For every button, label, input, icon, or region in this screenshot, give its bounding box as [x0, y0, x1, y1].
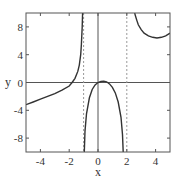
y-axis-label: y: [5, 75, 11, 89]
y-tick-label: 4: [18, 49, 24, 61]
x-tick-label: 4: [153, 155, 159, 167]
x-tick-label: 2: [124, 155, 130, 167]
x-tick-label: -4: [36, 155, 46, 167]
y-tick-label: 8: [18, 21, 24, 33]
curve-right-branch: [135, 13, 170, 38]
x-axis-label: x: [95, 165, 101, 179]
function-plot: -4-2024840-4-8 x y: [0, 0, 178, 179]
curve-left-branch: [26, 13, 83, 105]
y-tick-label: -8: [14, 132, 24, 144]
y-tick-label: 0: [18, 77, 24, 89]
x-tick-label: -2: [65, 155, 74, 167]
curve-middle-branch: [84, 81, 123, 152]
y-tick-label: -4: [14, 104, 24, 116]
